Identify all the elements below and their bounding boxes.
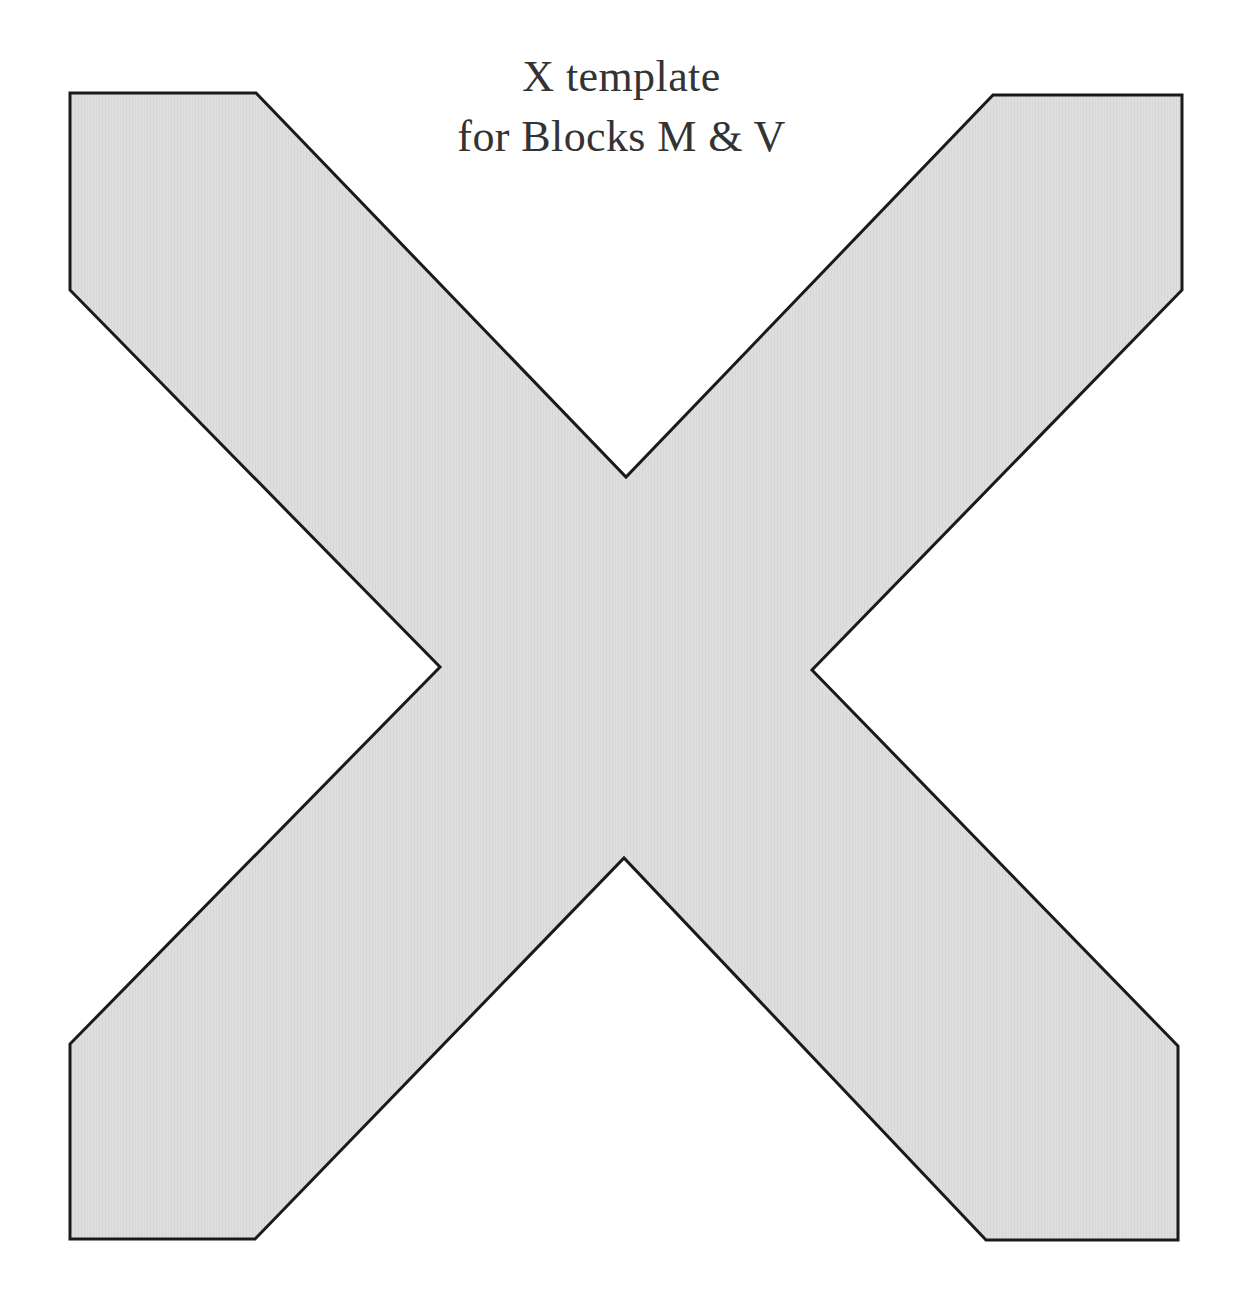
x-template-outline (70, 93, 1182, 1240)
x-template-figure (0, 0, 1243, 1295)
template-page: X template for Blocks M & V (0, 0, 1243, 1295)
